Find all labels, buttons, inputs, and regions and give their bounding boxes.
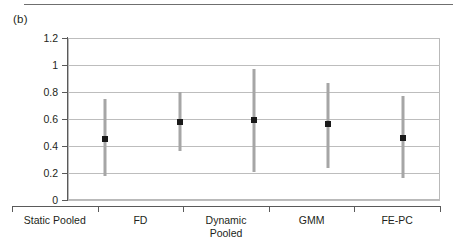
y-tick-1.2 xyxy=(62,38,68,39)
y-tick-0.8 xyxy=(62,92,68,93)
y-tick-0.4 xyxy=(62,146,68,147)
gridline-1.2 xyxy=(68,38,440,39)
y-tick-label-1: 1 xyxy=(12,59,58,71)
datapoint-dynamic-pooled xyxy=(251,117,257,123)
y-tick-label-0: 0 xyxy=(12,194,58,206)
y-tick-label-0.4: 0.4 xyxy=(12,140,58,152)
x-tick-5 xyxy=(440,206,441,212)
datapoint-static-pooled xyxy=(102,136,108,142)
x-tick-label-line: Pooled xyxy=(171,227,281,240)
y-tick-label-0.2: 0.2 xyxy=(12,167,58,179)
x-tick-label-line: FE-PC xyxy=(342,214,452,227)
y-tick-label-0.6: 0.6 xyxy=(12,113,58,125)
y-tick-1 xyxy=(62,65,68,66)
x-tick-3 xyxy=(269,206,270,212)
x-axis-line xyxy=(12,206,440,207)
x-tick-0 xyxy=(12,206,13,212)
plot-area xyxy=(68,38,440,200)
datapoint-fe-pc xyxy=(400,135,406,141)
y-axis-tick-labels: 00.20.40.60.811.2 xyxy=(6,0,58,250)
datapoint-gmm xyxy=(325,121,331,127)
gridline-0.2 xyxy=(68,173,440,174)
y-tick-label-0.8: 0.8 xyxy=(12,86,58,98)
y-tick-0.2 xyxy=(62,173,68,174)
datapoint-fd xyxy=(177,119,183,125)
x-tick-1 xyxy=(98,206,99,212)
y-tick-label-1.2: 1.2 xyxy=(12,32,58,44)
gridline-0 xyxy=(68,200,440,201)
x-tick-label-fe-pc: FE-PC xyxy=(342,214,452,227)
x-tick-2 xyxy=(183,206,184,212)
top-divider-rule xyxy=(24,4,453,5)
chart-figure: (b) 00.20.40.60.811.2 Static PooledFDDyn… xyxy=(0,0,457,250)
y-tick-0.6 xyxy=(62,119,68,120)
y-tick-0 xyxy=(62,200,68,201)
gridline-1 xyxy=(68,65,440,66)
x-tick-4 xyxy=(354,206,355,212)
